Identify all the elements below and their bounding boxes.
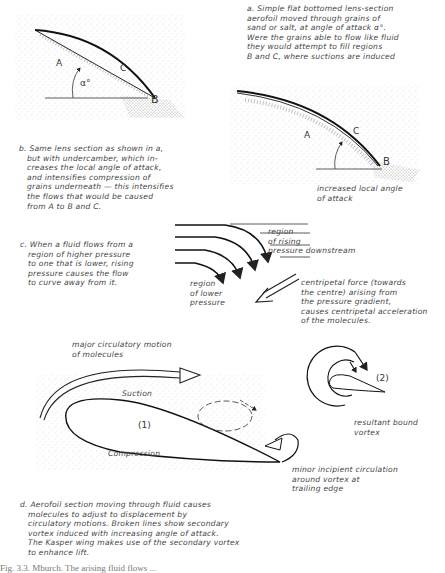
panel-a-angle-alpha: α° <box>80 78 90 88</box>
panel-a-label-A: A <box>56 58 62 68</box>
panel-d-suction-label: Suction <box>122 389 152 399</box>
panel-d-description: d. Aerofoil section moving through fluid… <box>20 500 240 558</box>
figure-caption: Fig. 3.3. Mburch. The arising fluid flow… <box>0 563 156 573</box>
panel-d-label-1: (1) <box>138 420 151 430</box>
panel-c-description: c. When a fluid flows from a region of h… <box>20 240 134 288</box>
panel-d-major-motion: major circulatory motion of molecules <box>72 340 172 359</box>
panel-b-label-B: B <box>383 156 390 167</box>
panel-c-centripetal-note: centripetal force (towards the centre) a… <box>301 278 428 326</box>
panel-c-region-rising: region of rising pressure downstream <box>268 227 356 256</box>
panel-d-label-2: (2) <box>376 373 389 383</box>
panel-b-description: b. Same lens section as shown in a, but … <box>19 144 174 211</box>
panel-c-region-lower: region of lower pressure <box>190 279 225 308</box>
panel-b-label-A: A <box>304 130 310 140</box>
panel-a-drawing <box>15 15 185 120</box>
panel-b-label-C: C <box>353 126 359 136</box>
panel-d-bound-vortex-label: resultant bound vortex <box>354 418 418 437</box>
panel-d-minor-circulation-label: minor incipient circulation around vorte… <box>292 465 398 494</box>
panel-b-annotation: increased local angle of attack <box>317 184 403 203</box>
panel-a-label-B: B <box>151 93 159 106</box>
panel-a-label-C: C <box>120 63 126 73</box>
panel-d-drawing <box>35 346 385 470</box>
panel-d-compression-label: Compression <box>108 449 160 459</box>
panel-a-description: a. Simple flat bottomed lens-section aer… <box>247 4 399 62</box>
panel-b-drawing <box>230 85 420 185</box>
